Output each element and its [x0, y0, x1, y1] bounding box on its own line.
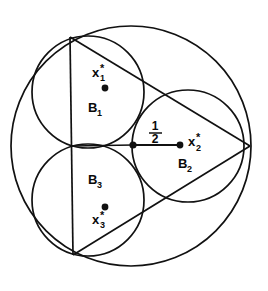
label-point-x3-base: x — [92, 212, 100, 227]
label-point-x1: x 1 * — [92, 62, 105, 83]
label-point-x1-subscript: 1 — [100, 73, 105, 83]
label-point-x2-base: x — [188, 134, 196, 149]
label-point-x3-subscript: 3 — [100, 220, 105, 230]
label-point-x2-superscript: * — [196, 131, 201, 143]
ball-circle-b3 — [32, 144, 144, 256]
figure-container: x 1 * B 1 1 2 x 2 * B 2 B 3 — [0, 0, 268, 291]
label-ball-b1: B 1 — [88, 100, 102, 118]
label-point-x2-subscript: 2 — [196, 143, 201, 153]
label-ball-b3-base: B — [88, 172, 97, 187]
label-point-x3-superscript: * — [100, 209, 105, 221]
marked-point-dot-x1 — [102, 85, 109, 92]
triangle-edge-top — [70, 37, 250, 146]
label-point-x2: x 2 * — [188, 131, 201, 153]
label-ball-b1-base: B — [88, 100, 97, 115]
label-ball-b2: B 2 — [178, 156, 192, 174]
label-ball-b3: B 3 — [88, 172, 102, 190]
marked-point-dot-x2 — [177, 142, 184, 149]
triangle-edge-bottom — [73, 146, 250, 255]
label-ball-b2-subscript: 2 — [187, 164, 192, 174]
label-ball-b3-subscript: 3 — [97, 180, 102, 190]
label-point-x3: x 3 * — [92, 209, 105, 230]
fraction-numerator: 1 — [152, 119, 159, 133]
label-point-x1-superscript: * — [100, 62, 105, 74]
ball-circle-b1 — [32, 36, 144, 148]
center-junction-dot — [129, 141, 136, 148]
label-ball-b2-base: B — [178, 156, 187, 171]
fraction-denominator: 2 — [152, 132, 159, 146]
label-point-x1-base: x — [92, 65, 100, 80]
label-ball-b1-subscript: 1 — [97, 108, 102, 118]
ball-covering-diagram: x 1 * B 1 1 2 x 2 * B 2 B 3 — [0, 0, 268, 291]
label-radius-half: 1 2 — [149, 119, 162, 146]
